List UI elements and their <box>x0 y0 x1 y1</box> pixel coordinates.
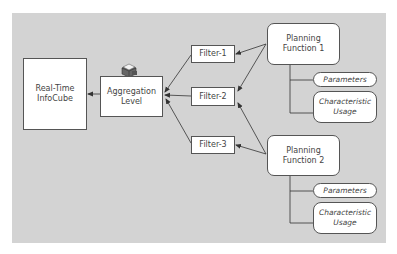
filter-3-node[interactable]: Filter-3 <box>191 136 235 154</box>
filter-1-label: Filter-1 <box>199 49 226 59</box>
filter-2-label: Filter-2 <box>199 92 226 102</box>
aggregation-level-label: Aggregation Level <box>107 87 156 107</box>
pf1-characteristic-usage-label: Characteristic Usage <box>319 97 371 117</box>
planning-function-1-node[interactable]: Planning Function 1 <box>267 23 340 65</box>
filter-2-node[interactable]: Filter-2 <box>191 87 235 106</box>
planning-function-1-label: Planning Function 1 <box>283 34 325 54</box>
planning-function-2-label: Planning Function 2 <box>283 146 325 166</box>
pf2-parameters-node[interactable]: Parameters <box>313 183 377 198</box>
infocube-node[interactable]: Real-Time InfoCube <box>23 58 87 130</box>
pf1-characteristic-usage-node[interactable]: Characteristic Usage <box>313 91 377 123</box>
planning-function-2-node[interactable]: Planning Function 2 <box>267 135 340 176</box>
filter-1-node[interactable]: Filter-1 <box>191 45 235 63</box>
pf2-parameters-label: Parameters <box>323 186 366 196</box>
infocube-label: Real-Time InfoCube <box>36 84 75 104</box>
pf2-characteristic-usage-label: Characteristic Usage <box>319 208 371 228</box>
pf2-characteristic-usage-node[interactable]: Characteristic Usage <box>313 202 377 234</box>
pf1-parameters-node[interactable]: Parameters <box>313 72 377 87</box>
filter-3-label: Filter-3 <box>199 140 226 150</box>
pf1-parameters-label: Parameters <box>323 75 366 85</box>
aggregation-level-node[interactable]: Aggregation Level <box>100 76 163 117</box>
